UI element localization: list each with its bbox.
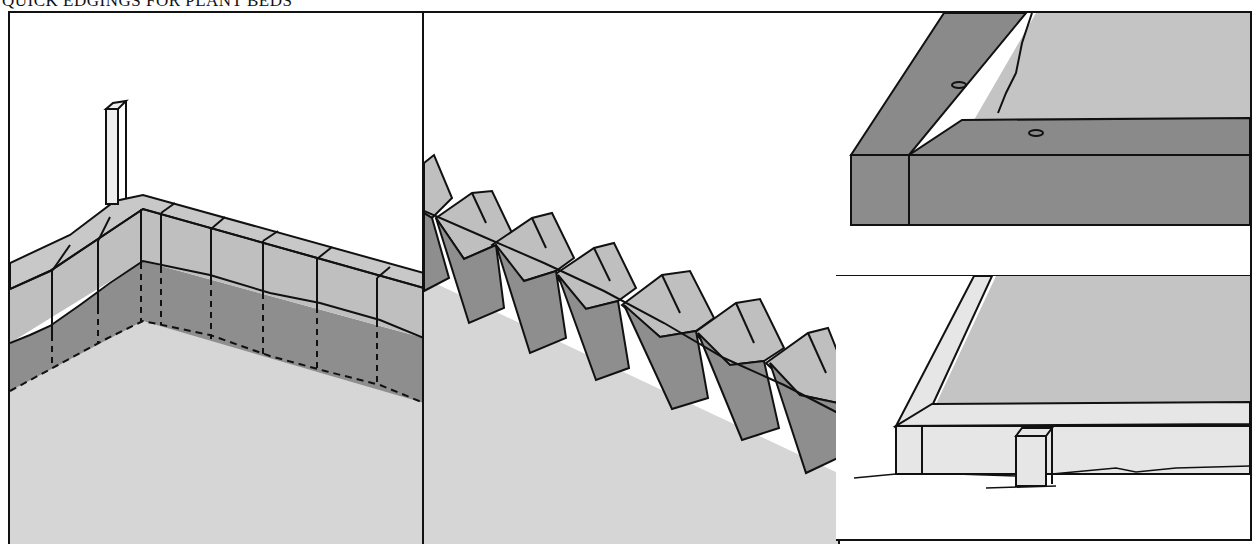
panel-brick-corner-edging bbox=[8, 11, 424, 544]
angled-brick-illustration bbox=[424, 13, 838, 544]
brick-corner-illustration bbox=[10, 13, 424, 544]
panel-angled-brick-edging bbox=[422, 11, 840, 544]
panel-timber-edging bbox=[836, 11, 1252, 277]
page-title: QUICK EDGINGS FOR PLANT BEDS bbox=[2, 0, 292, 11]
panel-board-edging bbox=[836, 276, 1252, 541]
timber-edging-illustration bbox=[836, 13, 1250, 275]
board-edging-illustration bbox=[836, 276, 1250, 539]
